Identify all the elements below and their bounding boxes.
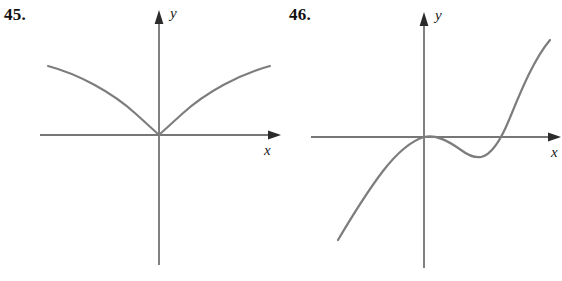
curve-45-right-branch: [159, 66, 270, 135]
x-axis-label-45: x: [264, 143, 271, 158]
x-axis-label-46: x: [551, 145, 558, 160]
x-axis-arrowhead-45: [268, 131, 281, 140]
x-axis-arrowhead-46: [548, 133, 561, 142]
curve-45-left-branch: [48, 66, 159, 135]
y-axis-arrowhead-45: [155, 10, 164, 24]
y-axis-label-45: y: [170, 6, 177, 21]
worksheet-page: 45. y x 46.: [0, 0, 562, 281]
plot-45: [0, 0, 281, 281]
curve-46-cubic: [338, 40, 550, 240]
y-axis-label-46: y: [435, 8, 442, 23]
figure-46: 46. y x: [281, 0, 562, 281]
figure-45: 45. y x: [0, 0, 281, 281]
plot-46: [281, 0, 562, 281]
y-axis-arrowhead-46: [420, 12, 429, 26]
